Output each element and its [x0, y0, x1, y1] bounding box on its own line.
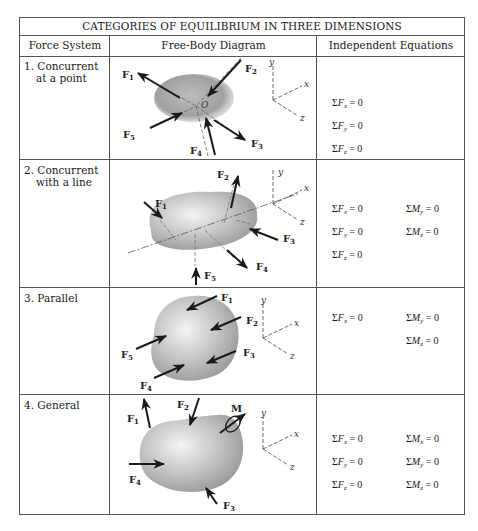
- fbd-concurrent-at-point: O F1 F2 F3 F4 F5 y x z: [110, 56, 316, 159]
- force-arrow-f4: [206, 118, 215, 155]
- force-label-f5: F5: [204, 270, 216, 283]
- equation-sum-fz: ΣFz = 0: [332, 475, 363, 498]
- force-label-f4: F4: [129, 474, 141, 487]
- force-label-f1: F1: [127, 413, 139, 426]
- axis-x-label: x: [304, 79, 309, 89]
- equation-sum-fx: ΣFx = 0: [332, 308, 363, 331]
- force-label-f3: F3: [223, 500, 235, 513]
- axis-z-label: z: [289, 351, 295, 361]
- force-label-f3: F3: [243, 347, 255, 360]
- equation-sum-fy: ΣFy = 0: [332, 222, 363, 245]
- equation-sum-fx: ΣFx = 0: [332, 429, 363, 452]
- axis-x-label: x: [294, 318, 299, 328]
- header-independent-equations: Independent Equations: [317, 35, 465, 56]
- column-divider: [316, 35, 317, 515]
- coordinate-axes: [273, 170, 302, 220]
- coordinate-axes: [263, 304, 292, 354]
- force-label-f2: F2: [245, 63, 257, 76]
- force-label-f4: F4: [140, 380, 152, 393]
- force-label-f3: F3: [283, 233, 295, 246]
- axis-x-label: x: [304, 183, 309, 193]
- fbd-general: F1 F2 F3 F4 M y x z: [110, 395, 316, 515]
- coordinate-axes: [263, 417, 292, 465]
- force-arrow-f3: [206, 488, 217, 504]
- rigid-body-blob: [151, 296, 238, 381]
- equations-row1: ΣFx = 0 ΣFy = 0 ΣFz = 0: [332, 93, 363, 162]
- axis-y-label: y: [260, 295, 267, 305]
- axis-y-label: y: [268, 57, 275, 67]
- axis-y-label: y: [260, 408, 267, 418]
- equations-row2-forces: ΣFx = 0 ΣFy = 0 ΣFz = 0: [332, 199, 363, 268]
- axis-z-label: z: [299, 217, 305, 227]
- equation-sum-mx: ΣMx = 0: [406, 429, 439, 452]
- coordinate-axes: [273, 66, 302, 116]
- axis-z-label: z: [289, 462, 295, 472]
- equations-row3-moments: ΣMy = 0 ΣMz = 0: [406, 308, 439, 354]
- force-label-f3: F3: [251, 138, 263, 151]
- row-label-concurrent-point: 1. Concurrent at a point: [24, 60, 98, 84]
- row-label-parallel: 3. Parallel: [24, 292, 78, 304]
- axis-y-label: y: [277, 167, 284, 177]
- force-label-f5: F5: [123, 129, 135, 142]
- force-label-f4: F4: [256, 261, 268, 274]
- equation-sum-fx: ΣFx = 0: [332, 199, 363, 222]
- equation-sum-fz: ΣFz = 0: [332, 139, 363, 162]
- equations-row4-forces: ΣFx = 0 ΣFy = 0 ΣFz = 0: [332, 429, 363, 498]
- fbd-concurrent-with-line: F1 F2 F3 F4 F5 y x z: [110, 160, 316, 287]
- force-label-f1: F1: [122, 69, 134, 82]
- header-free-body-diagram: Free-Body Diagram: [110, 35, 317, 56]
- equation-sum-my: ΣMy = 0: [406, 452, 439, 475]
- axis-z-label: z: [299, 113, 305, 123]
- rigid-body-blob: [150, 192, 258, 250]
- force-label-f2: F2: [177, 399, 189, 412]
- row-label-line2: at a point: [24, 72, 98, 84]
- force-arrow-f1: [144, 399, 150, 428]
- row-label-line1: 2. Concurrent: [24, 164, 98, 176]
- force-label-f2: F2: [246, 315, 258, 328]
- fbd-parallel: F1 F2 F3 F4 F5 y x z: [110, 288, 316, 394]
- point-o-label: O: [201, 100, 209, 110]
- row-label-line1: 3. Parallel: [24, 292, 78, 304]
- equation-sum-mz: ΣMz = 0: [406, 475, 439, 498]
- force-arrow-f4: [227, 250, 247, 268]
- row-label-line1: 4. General: [24, 399, 80, 411]
- force-arrow-f3: [250, 229, 278, 240]
- equation-sum-my: ΣMy = 0: [406, 308, 439, 331]
- equation-sum-fx: ΣFx = 0: [332, 93, 363, 116]
- row-label-line2: with a line: [24, 176, 98, 188]
- equation-sum-fy: ΣFy = 0: [332, 116, 363, 139]
- equation-sum-mz: ΣMz = 0: [406, 331, 439, 354]
- force-arrow-f5: [150, 113, 182, 128]
- equations-row3-forces: ΣFx = 0: [332, 308, 363, 331]
- force-label-f4: F4: [190, 145, 202, 158]
- equation-sum-fy: ΣFy = 0: [332, 452, 363, 475]
- force-arrow-f3: [214, 120, 245, 140]
- force-label-f5: F5: [121, 349, 133, 362]
- equation-sum-mz: ΣMz = 0: [406, 222, 439, 245]
- row-label-concurrent-line: 2. Concurrent with a line: [24, 164, 98, 188]
- equations-row4-moments: ΣMx = 0 ΣMy = 0 ΣMz = 0: [406, 429, 439, 498]
- force-label-f2: F2: [217, 169, 229, 182]
- equation-sum-fz: ΣFz = 0: [332, 245, 363, 268]
- table-title: CATEGORIES OF EQUILIBRIUM IN THREE DIMEN…: [20, 18, 464, 36]
- axis-x-label: x: [294, 429, 299, 439]
- column-header-row: Force System Free-Body Diagram Independe…: [20, 35, 464, 57]
- equations-row2-moments: ΣMy = 0 ΣMz = 0: [406, 199, 439, 245]
- header-force-system: Force System: [20, 35, 110, 56]
- equation-sum-my: ΣMy = 0: [406, 199, 439, 222]
- row-label-general: 4. General: [24, 399, 80, 411]
- row-label-line1: 1. Concurrent: [24, 60, 98, 72]
- moment-label-m: M: [231, 403, 242, 414]
